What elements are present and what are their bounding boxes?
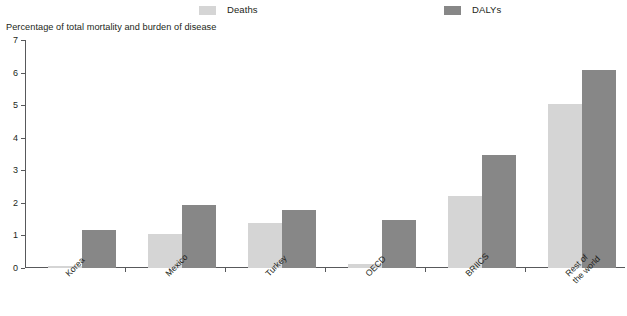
plot-area: 01234567 [25, 40, 625, 268]
bar-deaths-rest-of-the-world [548, 104, 582, 268]
x-tick [125, 268, 126, 272]
y-tick [21, 105, 25, 106]
y-tick [21, 203, 25, 204]
y-tick-label: 6 [13, 68, 18, 77]
x-tick [325, 268, 326, 272]
y-axis-title: Percentage of total mortality and burden… [6, 22, 216, 33]
y-tick-label: 3 [13, 166, 18, 175]
y-tick-label: 1 [13, 231, 18, 240]
y-tick [21, 235, 25, 236]
legend-item-dalys: DALYs [444, 3, 501, 17]
x-tick [525, 268, 526, 272]
y-tick-label: 7 [13, 36, 18, 45]
y-tick-label: 0 [13, 264, 18, 273]
y-axis-line [25, 40, 26, 268]
legend-label-deaths: Deaths [227, 5, 258, 15]
bar-chart: Deaths DALYs Percentage of total mortali… [0, 0, 627, 316]
y-tick [21, 40, 25, 41]
y-tick [21, 73, 25, 74]
x-tick [225, 268, 226, 272]
legend-swatch-dalys [444, 6, 461, 15]
x-tick [425, 268, 426, 272]
legend-label-dalys: DALYs [472, 5, 501, 15]
bar-dalys-rest-of-the-world [582, 70, 616, 268]
y-tick [21, 138, 25, 139]
bar-dalys-briics [482, 155, 516, 268]
y-tick [21, 170, 25, 171]
chart-legend: Deaths DALYs [0, 3, 627, 17]
y-tick-label: 5 [13, 101, 18, 110]
legend-item-deaths: Deaths [199, 3, 258, 17]
y-tick-label: 4 [13, 133, 18, 142]
legend-swatch-deaths [199, 6, 216, 15]
y-tick [21, 268, 25, 269]
y-tick-label: 2 [13, 198, 18, 207]
